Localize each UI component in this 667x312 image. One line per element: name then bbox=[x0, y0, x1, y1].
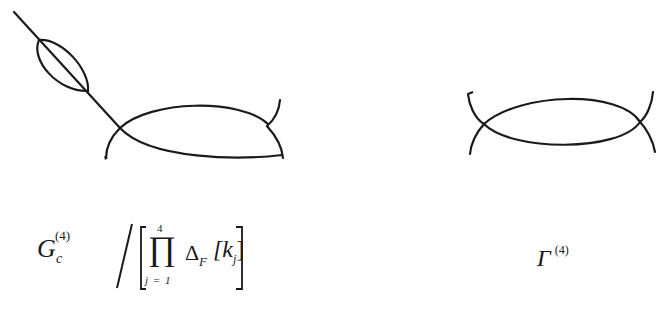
external-leg-right-bottom bbox=[640, 122, 655, 152]
external-leg-left-bottom bbox=[106, 128, 120, 158]
formula-right: Γ(4) bbox=[537, 245, 569, 272]
argument-open: [k bbox=[213, 236, 233, 262]
left-diagram bbox=[14, 12, 283, 158]
formula-symbol-G: G bbox=[37, 234, 56, 264]
formula-subscript: c bbox=[56, 251, 62, 267]
external-leg-line bbox=[14, 12, 120, 128]
right-diagram bbox=[468, 92, 655, 154]
formula-superscript: (4) bbox=[55, 228, 70, 244]
fish-loop-lower-arc bbox=[484, 122, 640, 145]
delta-symbol: Δ bbox=[185, 240, 199, 266]
fish-loop-lower-arc bbox=[120, 128, 282, 157]
delta-subscript: F bbox=[199, 254, 207, 270]
formula-symbol-gamma: Γ bbox=[537, 245, 551, 271]
formula-superscript: (4) bbox=[555, 243, 569, 257]
propagator-argument: [kj] bbox=[213, 236, 244, 263]
external-leg-right-top bbox=[267, 100, 280, 126]
fish-loop-upper-arc bbox=[484, 99, 640, 124]
external-leg-right-top bbox=[640, 92, 653, 122]
external-leg-left-top bbox=[468, 94, 484, 124]
product-lower-limit: j = 1 bbox=[145, 274, 171, 286]
product-symbol: ∏ bbox=[148, 232, 176, 266]
argument-close: ] bbox=[236, 236, 244, 262]
external-leg-right-bottom bbox=[267, 126, 283, 158]
external-leg-left-bottom bbox=[470, 124, 484, 154]
formula-left: G (4) c 4 ∏ j = 1 Δ F [kj] bbox=[35, 222, 275, 302]
hook-mark bbox=[468, 92, 473, 94]
fish-loop-upper-arc bbox=[120, 106, 268, 128]
argument-subscript: j bbox=[233, 252, 236, 266]
